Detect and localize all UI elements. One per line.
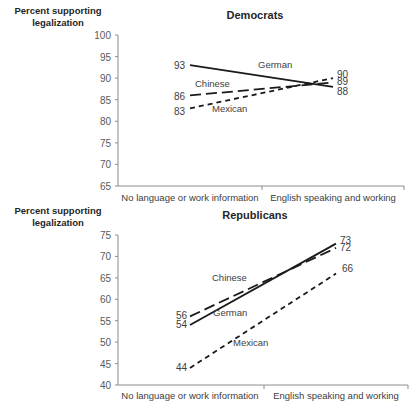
- chart-title: Republicans: [222, 209, 287, 221]
- y-axis-title-line1: Percent supporting: [14, 205, 101, 216]
- svg-text:95: 95: [100, 52, 112, 63]
- y-ticks: 75 70 65 60 55 50 45 40: [100, 230, 118, 391]
- svg-text:70: 70: [100, 251, 112, 262]
- svg-text:60: 60: [100, 294, 112, 305]
- svg-text:90: 90: [100, 73, 112, 84]
- series-label-mexican: Mexican: [233, 337, 268, 348]
- svg-text:85: 85: [100, 95, 112, 106]
- svg-text:40: 40: [100, 380, 112, 391]
- chart-title: Democrats: [227, 9, 284, 21]
- republicans-chart: Percent supporting legalization Republic…: [14, 205, 408, 401]
- svg-text:45: 45: [100, 359, 112, 370]
- democrats-chart: Percent supporting legalization Democrat…: [14, 5, 404, 203]
- series-mexican-line: [190, 274, 336, 368]
- value-chinese-left: 86: [174, 91, 186, 102]
- svg-text:100: 100: [94, 30, 111, 41]
- value-german-left: 54: [176, 319, 188, 330]
- value-mexican-left: 44: [176, 362, 188, 373]
- value-german-right: 88: [337, 86, 349, 97]
- x-category-right: English speaking and working: [273, 390, 399, 401]
- y-axis-title-line2: legalization: [32, 17, 84, 28]
- series-label-chinese: Chinese: [212, 272, 247, 283]
- svg-text:75: 75: [100, 138, 112, 149]
- y-ticks: 100 95 90 85 80 75 70 65: [94, 30, 118, 192]
- x-category-left: No language or work information: [121, 192, 258, 203]
- series-label-mexican: Mexican: [212, 103, 247, 114]
- value-mexican-left: 83: [174, 106, 186, 117]
- value-chinese-right: 72: [340, 242, 352, 253]
- svg-text:75: 75: [100, 230, 112, 241]
- svg-text:65: 65: [100, 273, 112, 284]
- svg-text:70: 70: [100, 159, 112, 170]
- svg-text:50: 50: [100, 337, 112, 348]
- x-category-left: No language or work information: [121, 390, 258, 401]
- charts-canvas: Percent supporting legalization Democrat…: [0, 0, 420, 402]
- y-axis-title-line1: Percent supporting: [14, 5, 101, 16]
- value-german-left: 93: [174, 60, 186, 71]
- y-axis-title-line2: legalization: [32, 217, 84, 228]
- series-label-chinese: Chinese: [195, 78, 230, 89]
- svg-text:80: 80: [100, 116, 112, 127]
- x-category-right: English speaking and working: [270, 192, 396, 203]
- series-german-line: [190, 244, 336, 325]
- series-label-german: German: [213, 307, 247, 318]
- series-label-german: German: [258, 59, 292, 70]
- value-mexican-right: 66: [342, 263, 354, 274]
- svg-text:55: 55: [100, 316, 112, 327]
- svg-text:65: 65: [100, 181, 112, 192]
